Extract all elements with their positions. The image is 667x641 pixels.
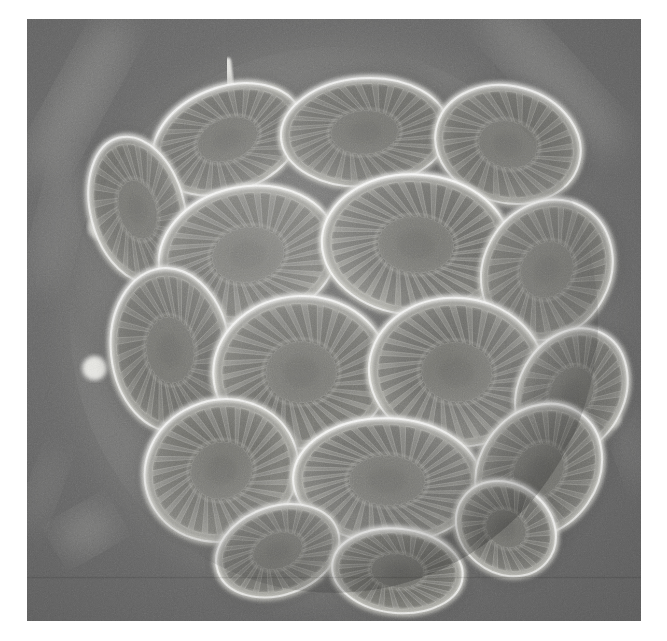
sem-grain-2 — [27, 19, 641, 621]
micrograph-canvas — [27, 19, 641, 621]
scanline-band — [27, 577, 641, 578]
sem-micrograph-photo — [27, 19, 641, 621]
figure-page — [0, 0, 667, 641]
